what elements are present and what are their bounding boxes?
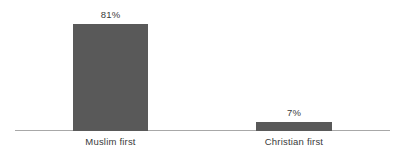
category-label-christian-first: Christian first (236, 136, 352, 147)
bar-christian-first[interactable] (256, 122, 332, 131)
bar-chart: 81% 7% Muslim first Christian first (0, 0, 403, 157)
plot-area: 81% 7% Muslim first Christian first (0, 0, 403, 157)
category-label-muslim-first: Muslim first (53, 136, 168, 147)
x-axis-baseline (15, 130, 390, 131)
value-label-muslim-first: 81% (73, 9, 148, 20)
bar-muslim-first[interactable] (73, 24, 148, 131)
value-label-christian-first: 7% (256, 107, 332, 118)
